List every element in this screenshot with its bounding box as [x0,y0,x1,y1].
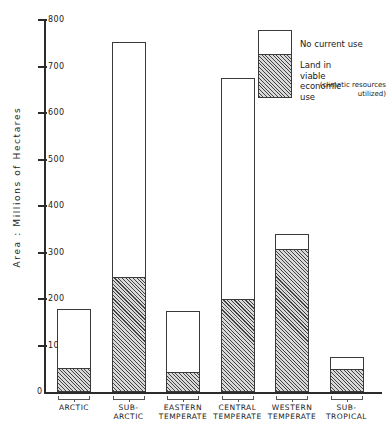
category-brace [113,396,145,400]
y-axis-title: Area : Millions of Hectares [12,102,22,272]
y-axis-tick-label: 0 [37,388,42,396]
y-axis-tick [38,112,47,114]
bar [57,309,91,392]
category-brace [58,396,90,400]
category-label-sub--tropical: SUB- TROPICAL [316,403,378,421]
y-axis-tick [38,345,47,347]
y-axis-tick-label: 600 [48,109,64,117]
category-brace [276,396,308,400]
y-axis-tick-label: 500 [48,156,64,164]
bar [330,357,364,392]
category-brace [331,396,363,400]
bar-segment-viable-use [58,368,90,391]
legend-label-no-current-use: No current use [300,39,363,49]
x-axis-line [44,392,382,394]
bar [166,311,200,392]
y-axis-tick [38,252,47,254]
category-brace [222,396,254,400]
category-label-sub--arctic: SUB- ARCTIC [98,403,160,421]
bar-segment-viable-use [113,277,145,391]
y-axis-tick-label: 300 [48,249,64,257]
bar-segment-viable-use [222,299,254,391]
bar [275,234,309,392]
bar [221,78,255,392]
category-brace [167,396,199,400]
legend-label-viable-use-sub: (climatic resources utilized) [300,81,386,98]
y-axis-tick-label: 700 [48,63,64,71]
y-axis-tick [38,19,47,21]
category-label-arctic: ARCTIC [43,403,105,412]
y-axis-tick-label: 200 [48,295,64,303]
bar-segment-viable-use [276,249,308,391]
legend-swatch-hatched-fill [259,54,291,97]
y-axis-tick [38,66,47,68]
category-label-western-temperate: WESTERN TEMPERATE [261,403,323,421]
legend-swatch [258,30,292,98]
bar-segment-viable-use [167,372,199,391]
y-axis-tick [38,205,47,207]
y-axis-tick [38,298,47,300]
bar-segment-viable-use [331,369,363,391]
category-label-central-temperate: CENTRAL TEMPERATE [207,403,269,421]
category-label-eastern-temperate: EASTERN TEMPERATE [152,403,214,421]
y-axis-tick-label: 400 [48,202,64,210]
y-axis-tick-label: 800 [48,16,64,24]
bar [112,42,146,392]
y-axis-tick [38,159,47,161]
